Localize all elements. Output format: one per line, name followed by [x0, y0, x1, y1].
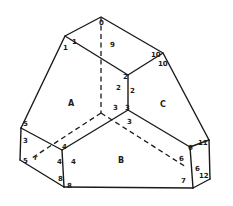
vertex-label: 3: [127, 118, 132, 126]
vertex-label: 0: [99, 19, 104, 27]
vertex-label: 1: [72, 38, 77, 46]
face-label-c: C: [160, 100, 166, 109]
vertex-label: 2: [130, 87, 135, 95]
face-label-a: A: [68, 99, 75, 108]
hidden-edge-to-left: [32, 113, 101, 158]
hidden-edges: [32, 17, 186, 167]
vertex-label: 8: [67, 182, 72, 190]
vertex-label: 2: [116, 84, 121, 92]
vertex-label: 8: [58, 175, 63, 183]
vertex-label: 7: [181, 177, 186, 185]
edge-left-block-back: [20, 128, 21, 160]
vertex-label: 4: [62, 143, 67, 151]
vertex-label: 9: [110, 41, 115, 49]
edge-right-block-bottom: [193, 179, 210, 188]
vertex-label: 10: [151, 51, 161, 59]
vertex-label: 3: [113, 104, 118, 112]
edge-center-to-right: [128, 110, 190, 147]
vertex-label: 6: [188, 144, 193, 152]
vertex-label: 4: [71, 158, 76, 166]
vertex-label: 6: [179, 155, 184, 163]
isometric-solid-diagram: A B C 0 1 1 9 2 2 2 10 10 3 3 3 5 3 4 4 …: [0, 0, 233, 206]
edge-right-block-front: [190, 147, 193, 188]
vertex-label: 3: [125, 104, 130, 112]
vertex-label: 12: [199, 172, 209, 180]
edge-left-slope: [21, 36, 65, 128]
vertex-label: 5: [23, 157, 28, 165]
hidden-edge-to-right: [101, 113, 186, 167]
vertex-label: 1: [63, 44, 68, 52]
vertex-label: 11: [198, 139, 208, 147]
face-label-b: B: [118, 156, 124, 165]
vertex-label: 3: [23, 137, 28, 145]
vertex-label: 5: [23, 120, 28, 128]
edge-bottom: [64, 187, 193, 188]
edge-center-to-left: [62, 110, 128, 150]
vertex-label: 4: [57, 158, 62, 166]
edge-right-slope: [163, 53, 209, 140]
vertex-label: 2: [123, 73, 128, 81]
edge-right-block-back: [209, 140, 210, 179]
vertex-label: 10: [158, 60, 168, 68]
vertex-label: r: [34, 154, 38, 162]
